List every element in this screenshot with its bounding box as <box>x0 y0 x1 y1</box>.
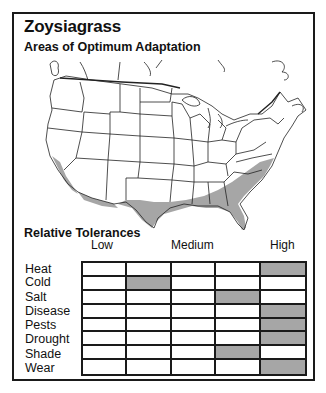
row-label-drought: Drought <box>25 333 69 346</box>
tolerance-cell <box>83 346 127 360</box>
tolerance-cell <box>261 319 305 333</box>
row-label-wear: Wear <box>25 362 55 375</box>
tolerance-cell <box>172 277 216 291</box>
level-high-label: High <box>270 238 295 252</box>
level-low-label: Low <box>91 238 113 252</box>
tolerance-cell <box>172 360 216 374</box>
map-heading: Areas of Optimum Adaptation <box>24 40 201 54</box>
row-label-shade: Shade <box>25 348 61 361</box>
tolerance-cell <box>216 291 260 305</box>
tolerance-cell <box>261 263 305 277</box>
row-label-cold: Cold <box>25 276 51 289</box>
tolerance-cell <box>127 360 171 374</box>
tolerance-cell <box>261 277 305 291</box>
row-label-salt: Salt <box>25 291 47 304</box>
tolerance-cell <box>261 291 305 305</box>
tolerances-heading: Relative Tolerances <box>24 226 141 240</box>
tolerance-cell <box>261 360 305 374</box>
tolerance-cell <box>172 319 216 333</box>
tolerance-cell <box>127 277 171 291</box>
tolerance-cell <box>127 319 171 333</box>
shaded-region <box>52 156 274 230</box>
tolerance-cell <box>216 346 260 360</box>
tolerance-cell <box>216 360 260 374</box>
tolerance-cell <box>127 305 171 319</box>
tolerance-cell <box>172 346 216 360</box>
tolerance-cell <box>216 263 260 277</box>
tolerance-cell <box>127 291 171 305</box>
tolerance-cell <box>172 332 216 346</box>
tolerance-cell <box>83 305 127 319</box>
tolerance-cell <box>216 319 260 333</box>
tolerance-cell <box>83 332 127 346</box>
tolerance-cell <box>83 277 127 291</box>
tolerance-cell <box>127 346 171 360</box>
row-label-pests: Pests <box>25 319 56 332</box>
tolerance-cell <box>127 263 171 277</box>
figure-title: Zoysiagrass <box>24 17 121 37</box>
level-medium-label: Medium <box>171 238 214 252</box>
tolerance-cell <box>127 332 171 346</box>
tolerance-cell <box>216 332 260 346</box>
tolerance-cell <box>216 277 260 291</box>
tolerance-cell <box>83 319 127 333</box>
tolerance-cell <box>83 291 127 305</box>
tolerance-cell <box>261 305 305 319</box>
tolerance-cell <box>172 291 216 305</box>
tolerance-cell <box>83 360 127 374</box>
tolerance-cell <box>172 263 216 277</box>
tolerance-cell <box>261 346 305 360</box>
tolerance-cell <box>261 332 305 346</box>
tolerance-cell <box>216 305 260 319</box>
us-adaptation-map <box>22 58 308 230</box>
tolerance-grid <box>81 261 307 376</box>
tolerance-cell <box>172 305 216 319</box>
row-label-disease: Disease <box>25 305 70 318</box>
tolerance-cell <box>83 263 127 277</box>
